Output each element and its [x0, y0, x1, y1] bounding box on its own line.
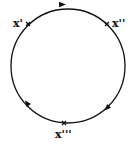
point-label-p3: x''' — [55, 128, 72, 141]
arrow-top-icon — [59, 2, 66, 7]
orbit-diagram: x' x'' x''' — [0, 0, 137, 149]
point-label-p2: x'' — [112, 17, 125, 30]
point-label-p1: x' — [13, 17, 23, 30]
